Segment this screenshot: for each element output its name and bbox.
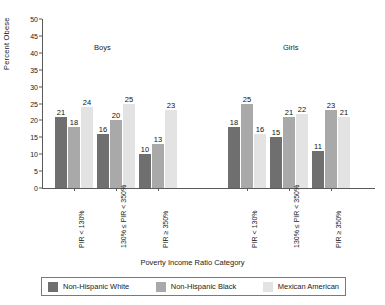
bar: 18 (228, 127, 240, 188)
y-axis-tick-mark (39, 120, 42, 121)
y-axis-tick-mark (39, 188, 42, 189)
bar-value-label: 21 (285, 108, 293, 117)
x-axis-tick-mark (158, 188, 159, 191)
panel-title-boys: Boys (94, 43, 111, 52)
panel-title-girls: Girls (283, 43, 298, 52)
x-axis-line (42, 188, 375, 189)
bar: 10 (139, 154, 151, 188)
bar: 13 (152, 144, 164, 188)
bar-value-label: 13 (154, 135, 162, 144)
bar-value-label: 18 (70, 118, 78, 127)
bar: 16 (97, 134, 109, 188)
bar-value-label: 16 (99, 125, 107, 134)
bar-value-label: 23 (327, 101, 335, 110)
bar: 23 (325, 110, 337, 188)
y-axis-tick-mark (39, 103, 42, 104)
bar: 21 (283, 117, 295, 188)
legend-label: Mexican American (278, 282, 339, 291)
chart-legend: Non-Hispanic WhiteNon-Hispanic BlackMexi… (41, 277, 346, 296)
y-axis-tick-mark (39, 137, 42, 138)
y-axis-tick-mark (39, 19, 42, 20)
x-axis-category-label: PIR < 130% (78, 210, 85, 248)
x-axis-category-label: 130% ≤ PIR < 350% (120, 185, 127, 248)
chart-figure: Percent Obese 50454035302520151050 Boys … (0, 0, 385, 305)
bar: 20 (110, 120, 122, 188)
bar: 25 (241, 104, 253, 189)
bar: 25 (123, 104, 135, 189)
x-axis-category-label: 130% ≤ PIR < 350% (293, 185, 300, 248)
bar-value-label: 10 (141, 145, 149, 154)
bar-value-label: 25 (243, 95, 251, 104)
bar-value-label: 25 (125, 95, 133, 104)
bar: 21 (55, 117, 67, 188)
legend-swatch-icon (156, 282, 166, 292)
x-axis-category-label: PIR < 130% (251, 210, 258, 248)
bar-value-label: 21 (57, 108, 65, 117)
bar: 21 (338, 117, 350, 188)
bar-value-label: 16 (256, 125, 264, 134)
x-axis-category-label: PIR ≥ 350% (162, 211, 169, 248)
legend-item: Mexican American (263, 282, 339, 292)
bar: 24 (81, 107, 93, 188)
bar-value-label: 11 (314, 142, 322, 151)
x-axis-category-label: PIR ≥ 350% (335, 211, 342, 248)
y-axis-tick-mark (39, 35, 42, 36)
x-axis-tick-mark (74, 188, 75, 191)
x-axis-label: Poverty Income Ratio Category (0, 258, 385, 267)
legend-label: Non-Hispanic Black (171, 282, 236, 291)
bar-value-label: 24 (83, 98, 91, 107)
bar: 22 (296, 114, 308, 188)
bar: 15 (270, 137, 282, 188)
x-axis-tick-mark (247, 188, 248, 191)
y-axis-tick-mark (39, 86, 42, 87)
y-axis-tick-mark (39, 52, 42, 53)
legend-label: Non-Hispanic White (63, 282, 129, 291)
legend-item: Non-Hispanic White (48, 282, 129, 292)
y-axis-tick-mark (39, 69, 42, 70)
bar: 23 (165, 110, 177, 188)
legend-item: Non-Hispanic Black (156, 282, 236, 292)
bar-value-label: 22 (298, 105, 306, 114)
bar: 11 (312, 151, 324, 188)
bar-value-label: 21 (340, 108, 348, 117)
y-axis-tick-mark (39, 171, 42, 172)
y-axis-tick-mark (39, 154, 42, 155)
y-axis-label: Percent Obese (2, 17, 11, 70)
legend-swatch-icon (263, 282, 273, 292)
bar-value-label: 23 (167, 101, 175, 110)
bar: 16 (254, 134, 266, 188)
legend-swatch-icon (48, 282, 58, 292)
bar: 18 (68, 127, 80, 188)
x-axis-tick-mark (289, 188, 290, 191)
bar-value-label: 18 (230, 118, 238, 127)
bar-value-label: 20 (112, 111, 120, 120)
y-axis-line (42, 19, 43, 189)
bar-value-label: 15 (272, 128, 280, 137)
x-axis-tick-mark (116, 188, 117, 191)
x-axis-tick-mark (331, 188, 332, 191)
